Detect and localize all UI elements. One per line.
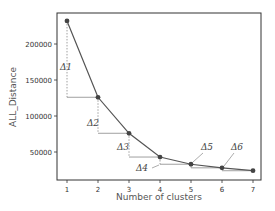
- delta-label: Δ2: [86, 118, 99, 128]
- delta-leader-line: [152, 165, 159, 168]
- data-point-marker: [220, 165, 225, 170]
- delta-label: Δ5: [200, 142, 213, 152]
- delta-leader-line: [193, 153, 203, 162]
- delta-label: Δ3: [116, 142, 129, 152]
- delta-annotations: Δ1Δ2Δ3Δ4Δ5Δ6: [59, 62, 243, 173]
- delta-label: Δ6: [230, 142, 243, 152]
- data-series: [65, 19, 256, 174]
- series-line: [67, 21, 253, 171]
- x-tick-label: 2: [96, 186, 100, 194]
- data-point-marker: [127, 131, 132, 136]
- x-tick-label: 7: [251, 186, 255, 194]
- data-point-marker: [96, 95, 101, 100]
- x-tick-label: 1: [65, 186, 69, 194]
- y-tick-label: 200000: [25, 41, 52, 49]
- data-point-marker: [158, 155, 163, 160]
- delta-label: Δ4: [135, 163, 148, 173]
- data-point-marker: [189, 162, 194, 167]
- data-point-marker: [65, 19, 70, 24]
- y-axis-ticks: 50000100000150000200000: [25, 41, 57, 157]
- delta-leader-line: [224, 153, 234, 166]
- data-point-marker: [251, 168, 256, 173]
- y-tick-label: 100000: [25, 113, 52, 121]
- y-axis-label: ALL_Distance: [8, 67, 18, 128]
- elbow-chart: 1234567 50000100000150000200000 Δ1Δ2Δ3Δ4…: [0, 0, 275, 211]
- x-axis-label: Number of clusters: [116, 192, 202, 202]
- y-tick-label: 50000: [30, 149, 52, 157]
- y-tick-label: 150000: [25, 77, 52, 85]
- delta-guides: [67, 21, 253, 171]
- delta-label: Δ1: [59, 62, 72, 72]
- x-tick-label: 6: [220, 186, 225, 194]
